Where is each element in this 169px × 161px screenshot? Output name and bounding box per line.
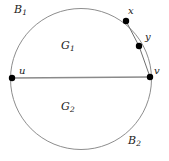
region-label-G1-sub: 1 (70, 44, 75, 53)
point-x-dot (123, 18, 129, 24)
region-label-G2: G2 (61, 101, 75, 112)
point-label-u: u (19, 66, 25, 76)
point-v-dot (147, 74, 153, 80)
point-label-y: y (145, 32, 151, 42)
region-label-B1-sub: 1 (22, 8, 27, 17)
point-label-v: v (154, 66, 160, 76)
chord-uv (12, 77, 150, 78)
region-label-B1-base: B (14, 3, 22, 16)
circle-chord-diagram: B1 G1 G2 B2 u v x y (0, 0, 169, 161)
point-y-dot (136, 43, 142, 49)
point-u-dot (9, 75, 15, 81)
region-label-B2-base: B (128, 134, 136, 147)
region-label-B1: B1 (14, 4, 27, 15)
point-label-x: x (128, 6, 134, 16)
region-label-G1: G1 (61, 40, 75, 51)
region-label-B2: B2 (128, 135, 141, 146)
region-label-G2-base: G (61, 100, 70, 113)
region-label-B2-sub: 2 (136, 139, 141, 148)
region-label-G1-base: G (61, 39, 70, 52)
diagram-canvas (0, 0, 169, 161)
region-label-G2-sub: 2 (70, 105, 75, 114)
